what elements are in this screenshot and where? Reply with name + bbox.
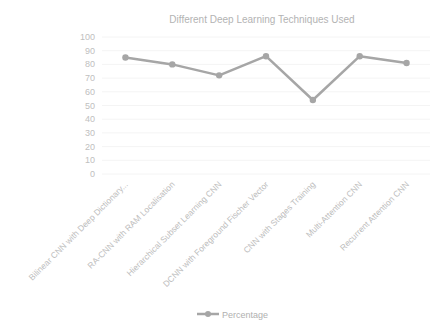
- x-axis-labels: Bilinear CNN with Deep Dictionary...RA-C…: [27, 179, 411, 289]
- y-tick-label: 90: [85, 46, 95, 56]
- y-axis-ticks: 0102030405060708090100: [80, 32, 95, 179]
- data-point: [263, 53, 269, 59]
- x-category-label: RA-CNN with RAM Localisation: [85, 179, 176, 270]
- data-point: [122, 54, 128, 60]
- y-tick-label: 40: [85, 114, 95, 124]
- data-point: [169, 61, 175, 67]
- y-tick-label: 50: [85, 101, 95, 111]
- y-tick-label: 70: [85, 73, 95, 83]
- legend-marker-icon: [205, 311, 211, 317]
- y-tick-label: 80: [85, 59, 95, 69]
- y-tick-label: 0: [90, 169, 95, 179]
- y-tick-label: 10: [85, 155, 95, 165]
- legend: Percentage: [197, 310, 268, 320]
- y-tick-label: 60: [85, 87, 95, 97]
- data-point: [216, 72, 222, 78]
- x-category-label: Hierarchical Subset Learning CNN: [125, 179, 224, 278]
- x-category-label: Bilinear CNN with Deep Dictionary...: [27, 179, 130, 282]
- y-tick-label: 100: [80, 32, 95, 42]
- chart-title: Different Deep Learning Techniques Used: [169, 14, 354, 25]
- y-tick-label: 30: [85, 128, 95, 138]
- y-tick-label: 20: [85, 142, 95, 152]
- data-point: [357, 53, 363, 59]
- data-point: [403, 60, 409, 66]
- data-point: [310, 97, 316, 103]
- line-chart: Different Deep Learning Techniques Used …: [0, 0, 439, 336]
- legend-label: Percentage: [222, 310, 268, 320]
